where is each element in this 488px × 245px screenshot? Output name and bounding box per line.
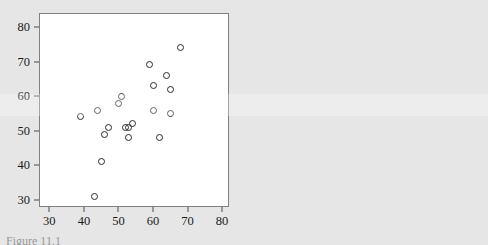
data-point-marker xyxy=(77,113,84,120)
data-point-marker xyxy=(94,107,101,114)
y-tick-label: 50 xyxy=(18,125,31,138)
x-tick-label: 80 xyxy=(216,215,229,228)
y-tick-mark xyxy=(34,130,39,131)
y-tick-label: 60 xyxy=(18,90,31,103)
figure-container: 304050607080304050607080 020406080100120… xyxy=(0,0,488,245)
data-point-marker xyxy=(177,44,184,51)
data-point-marker xyxy=(167,86,174,93)
x-tick-label: 50 xyxy=(112,215,125,228)
x-tick-label: 60 xyxy=(147,215,160,228)
y-tick-label: 40 xyxy=(18,159,31,172)
y-tick-mark xyxy=(34,61,39,62)
data-point-marker xyxy=(146,61,153,68)
data-point-marker xyxy=(150,82,157,89)
data-point-marker xyxy=(118,93,125,100)
y-tick-mark xyxy=(34,200,39,201)
y-tick-label: 70 xyxy=(18,55,31,68)
data-point-marker xyxy=(105,124,112,131)
y-tick-mark xyxy=(34,26,39,27)
y-tick-label: 30 xyxy=(18,194,31,207)
data-point-marker xyxy=(156,134,163,141)
x-tick-mark xyxy=(49,207,50,212)
data-point-marker xyxy=(167,110,174,117)
x-tick-mark xyxy=(83,207,84,212)
data-layer-left: 304050607080304050607080 xyxy=(0,0,244,245)
figure-caption: Figure 11.1 xyxy=(6,234,61,245)
x-tick-mark xyxy=(153,207,154,212)
x-tick-mark xyxy=(118,207,119,212)
data-point-marker xyxy=(115,100,122,107)
data-point-marker xyxy=(101,131,108,138)
data-point-marker xyxy=(91,193,98,200)
scatter-panel-right: 020406080100120020406080100120 xyxy=(244,0,488,245)
data-layer-right: 020406080100120020406080100120 xyxy=(244,0,488,245)
data-point-marker xyxy=(125,134,132,141)
data-point-marker xyxy=(163,72,170,79)
y-tick-mark xyxy=(34,96,39,97)
scatter-panel-left: 304050607080304050607080 xyxy=(0,0,244,245)
y-tick-mark xyxy=(34,165,39,166)
x-tick-label: 70 xyxy=(181,215,194,228)
data-point-marker xyxy=(98,158,105,165)
x-tick-mark xyxy=(187,207,188,212)
y-tick-label: 80 xyxy=(18,21,31,34)
x-tick-label: 30 xyxy=(43,215,56,228)
x-tick-label: 40 xyxy=(78,215,91,228)
data-point-marker xyxy=(150,107,157,114)
x-tick-mark xyxy=(222,207,223,212)
data-point-marker xyxy=(129,120,136,127)
